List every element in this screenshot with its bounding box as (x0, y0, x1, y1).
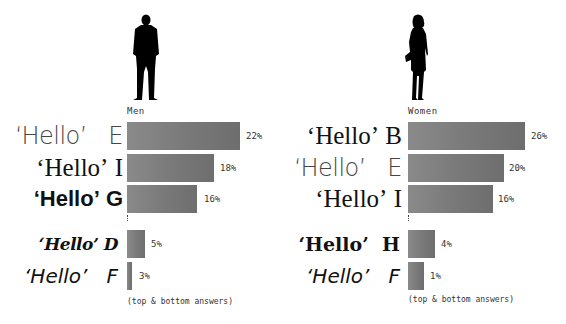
man-silhouette-icon (130, 14, 162, 100)
men-label: Men (127, 106, 145, 116)
font-sample-label: ‘Hello’ E (294, 154, 402, 182)
men-row-g: ‘Hello’ G 16% (0, 185, 283, 213)
women-panel: Women ‘Hello’ B 26% ‘Hello’ E 20% ‘Hello… (283, 0, 566, 324)
font-sample-label: ‘Hello’ D (39, 230, 118, 258)
gap-ellipsis (127, 215, 129, 221)
bar (408, 122, 525, 150)
percent-label: 20% (509, 154, 525, 182)
men-footnote: (top & bottom answers) (127, 297, 233, 306)
font-sample-label: ‘Hello’ E (15, 122, 123, 150)
women-row-f: ‘Hello’ F 1% (283, 262, 566, 290)
percent-label: 16% (498, 185, 514, 213)
percent-label: 16% (204, 185, 220, 213)
percent-label: 3% (139, 262, 150, 290)
percent-label: 22% (246, 122, 262, 150)
bar (127, 230, 145, 258)
men-row-f: ‘Hello’ F 3% (0, 262, 283, 290)
bar (408, 230, 435, 258)
bar (408, 262, 424, 290)
percent-label: 4% (441, 230, 452, 258)
font-sample-label: ‘Hello’ H (298, 230, 400, 258)
font-sample-label: ‘Hello’ I (36, 154, 123, 182)
men-panel: Men ‘Hello’ E 22% ‘Hello’ I 18% ‘Hello’ … (0, 0, 283, 324)
women-footnote: (top & bottom answers) (408, 295, 514, 304)
font-sample-label: ‘Hello’ F (24, 262, 118, 290)
font-sample-label: ‘Hello’ F (306, 262, 400, 290)
men-row-d: ‘Hello’ D 5% (0, 230, 283, 258)
font-sample-label: ‘Hello’ I (315, 185, 402, 213)
gap-ellipsis (408, 215, 410, 221)
bar (127, 154, 214, 182)
percent-label: 18% (220, 154, 236, 182)
woman-silhouette-icon (402, 14, 434, 100)
women-row-h: ‘Hello’ H 4% (283, 230, 566, 258)
bar (127, 122, 240, 150)
bar (127, 185, 197, 213)
men-row-i: ‘Hello’ I 18% (0, 154, 283, 182)
percent-label: 1% (430, 262, 441, 290)
percent-label: 26% (531, 122, 547, 150)
bar (408, 154, 504, 182)
bar (127, 262, 132, 290)
men-row-e: ‘Hello’ E 22% (0, 122, 283, 150)
women-row-i: ‘Hello’ I 16% (283, 185, 566, 213)
bar (408, 185, 493, 213)
women-label: Women (408, 106, 438, 116)
women-row-e: ‘Hello’ E 20% (283, 154, 566, 182)
font-sample-label: ‘Hello’ B (307, 122, 402, 150)
percent-label: 5% (151, 230, 162, 258)
women-row-b: ‘Hello’ B 26% (283, 122, 566, 150)
font-sample-label: ‘Hello’ G (34, 185, 123, 213)
